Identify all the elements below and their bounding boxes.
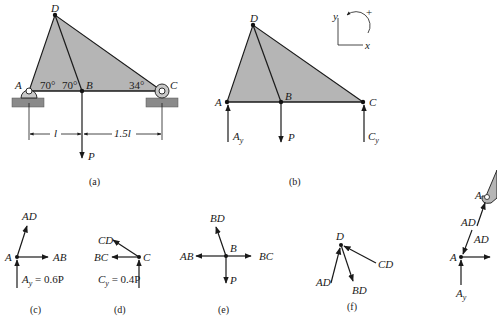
coordinate-axes-icon: y x + (332, 6, 372, 51)
force-p-label: P (229, 274, 237, 286)
node-d-label: D (249, 12, 258, 24)
panel-c: AD AB A Ay = 0.6P (c) (4, 210, 67, 316)
caption-a: (a) (89, 176, 100, 188)
panel-b: D A B C Ay P Cy y x + (b) (214, 6, 379, 188)
force-bc-label: BC (259, 250, 274, 262)
dim-ab: l (54, 127, 57, 139)
node-d-label: D (50, 2, 59, 14)
ground-a (12, 98, 44, 107)
node-b-label: B (86, 79, 93, 91)
truss-figure: D A B C 70° 70° 34° l 1.5l P (a) D A B C (0, 0, 497, 327)
panel-partial: A AD AD A Ay (449, 170, 497, 302)
node-label: B (230, 242, 237, 254)
force-cd-label: CD (378, 258, 393, 270)
node-a-label: A (214, 96, 222, 108)
caption-c: (c) (30, 304, 41, 316)
load-label: P (87, 150, 95, 162)
caption-d: (d) (114, 304, 126, 316)
node-label: A (4, 251, 12, 263)
node-c-label: C (369, 96, 377, 108)
force-ab-label: AB (179, 250, 194, 262)
dim-bc: 1.5l (114, 127, 131, 139)
node-b-label: B (285, 90, 292, 102)
node-label: C (143, 251, 151, 263)
node-label: A (449, 251, 457, 263)
force-ad-label: AD (315, 276, 331, 288)
caption-e: (e) (218, 304, 229, 316)
node-label: D (335, 230, 344, 242)
reaction-label: Cy = 0.4P (98, 273, 140, 288)
force-cd-label: CD (98, 234, 113, 246)
svg-text:y: y (332, 10, 338, 22)
force-ad-label: AD (473, 233, 489, 245)
svg-text:x: x (364, 39, 370, 51)
angle-b: 70° (62, 79, 77, 91)
caption-b: (b) (289, 176, 301, 188)
force-bc-label: BC (94, 251, 109, 263)
reaction-cy-label: Cy (368, 130, 379, 145)
node-c-label: C (170, 79, 178, 91)
panel-e: BD AB BC P B (e) (179, 212, 274, 316)
force-ad-label: AD (460, 216, 476, 228)
angle-a: 70° (40, 79, 55, 91)
panel-d: CD BC C Cy = 0.4P (d) (94, 234, 151, 316)
panel-f: D AD CD BD (f) (315, 230, 393, 313)
caption-f: (f) (347, 301, 357, 313)
panel-a: D A B C 70° 70° 34° l 1.5l P (a) (12, 2, 178, 188)
reaction-label: Ay = 0.6P (21, 273, 64, 288)
reaction-label: Ay (455, 287, 467, 302)
force-ab-label: AB (52, 251, 67, 263)
force-bd-label: BD (352, 284, 367, 296)
node-label: A (474, 189, 482, 201)
reaction-ay-label: Ay (232, 130, 244, 145)
node-a-label: A (14, 79, 22, 91)
fbd-truss-body (227, 25, 363, 102)
angle-c: 34° (129, 79, 144, 91)
load-label: P (287, 131, 295, 143)
force-bd-label: BD (210, 212, 225, 224)
svg-text:+: + (366, 6, 372, 18)
force-ad-label: AD (21, 210, 37, 222)
